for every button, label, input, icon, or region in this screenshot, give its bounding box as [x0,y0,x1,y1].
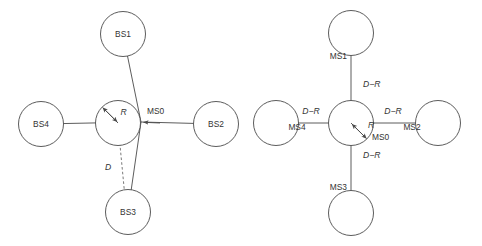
right-panel-group: MS1 MS2 MS3 MS4 MS0 R D−R D−R D−R D−R [254,11,461,236]
node-circle-ms1[interactable] [329,11,374,56]
label-ms0-right-panel: MS0 [372,132,390,142]
label-arm-top: D−R [363,79,380,89]
label-bs2: BS2 [208,119,224,129]
label-ms3: MS3 [330,182,348,192]
label-ms4: MS4 [288,122,306,132]
label-bs3: BS3 [120,207,136,217]
label-bs1: BS1 [115,29,131,39]
label-bs4: BS4 [33,119,49,129]
label-ms1: MS1 [330,51,348,61]
node-circle-ms3[interactable] [329,191,374,236]
label-radius-r-right: R [368,120,374,130]
label-ms2: MS2 [403,122,421,132]
left-panel-group: BS1 BS2 BS3 BS4 MS0 R D [19,12,239,235]
label-arm-right: D−R [384,106,401,116]
label-ms0-left-panel: MS0 [147,106,165,116]
label-arm-left: D−R [302,106,319,116]
diagram-svg: BS1 BS2 BS3 BS4 MS0 R D [0,0,482,246]
label-arm-bottom: D−R [363,150,380,160]
node-circle-ms2[interactable] [416,101,461,146]
figure-canvas: BS1 BS2 BS3 BS4 MS0 R D [0,0,482,246]
label-radius-r-left: R [120,107,126,117]
label-distance-d: D [105,162,111,172]
